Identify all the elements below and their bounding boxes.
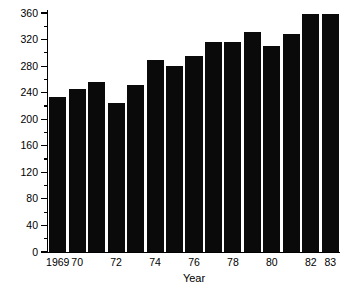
x-axis-tick-label: 80	[266, 256, 278, 268]
y-axis-tick-label: 320	[0, 34, 38, 44]
y-axis-tick-label: 360	[0, 8, 38, 18]
bar	[185, 56, 202, 253]
bar	[244, 32, 261, 252]
x-axis-tick-label: 78	[227, 256, 239, 268]
x-axis-tick-label: 83	[324, 256, 336, 268]
bar	[205, 42, 222, 252]
y-axis-tick-label: 0	[0, 247, 38, 257]
y-axis-tick-label: 200	[0, 114, 38, 124]
x-axis-tick-label: 82	[305, 256, 317, 268]
x-axis-title: Year	[48, 272, 340, 284]
bar	[147, 60, 164, 252]
y-axis-tick-label: 280	[0, 61, 38, 71]
bar	[166, 66, 183, 252]
bar	[127, 85, 144, 252]
bar-series	[48, 10, 340, 252]
x-axis-tick-labels: 19697072747678808283	[48, 256, 340, 270]
bar-chart: Nitrate + Nitrite (µg/l) 040801201602002…	[0, 0, 351, 290]
bar	[263, 46, 280, 252]
y-axis-tick-labels: 04080120160200240280320360	[0, 0, 38, 290]
bar	[88, 82, 105, 252]
bar	[224, 42, 241, 252]
y-axis-tick-label: 40	[0, 220, 38, 230]
y-axis-tick-label: 240	[0, 87, 38, 97]
bar	[49, 97, 66, 252]
bar	[302, 14, 319, 252]
x-axis-tick-label: 72	[110, 256, 122, 268]
bar	[283, 34, 300, 252]
x-axis-tick-label: 74	[149, 256, 161, 268]
x-axis-tick-label: 70	[71, 256, 83, 268]
y-axis-tick-label: 160	[0, 140, 38, 150]
x-axis-tick-label: 1969	[46, 256, 69, 268]
bar	[69, 89, 86, 252]
bar	[108, 103, 125, 252]
x-axis-tick-label: 76	[188, 256, 200, 268]
y-axis-tick-label: 80	[0, 193, 38, 203]
y-axis-tick-label: 120	[0, 167, 38, 177]
bar	[322, 14, 339, 252]
